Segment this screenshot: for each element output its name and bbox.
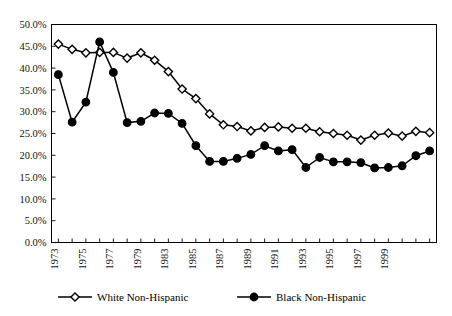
data-point xyxy=(357,159,365,167)
data-point xyxy=(165,110,173,118)
data-point xyxy=(371,164,379,172)
data-point xyxy=(206,158,214,166)
x-axis-tick-label: 1993 xyxy=(297,249,308,270)
x-axis-labels: 1973197519771979198319851987198919911993… xyxy=(49,249,390,270)
x-axis-tick-label: 1985 xyxy=(187,249,198,270)
y-axis-tick-label: 15.0% xyxy=(19,172,46,183)
data-point xyxy=(233,155,241,163)
y-axis-tick-label: 20.0% xyxy=(19,150,46,161)
data-point xyxy=(288,146,296,154)
data-point xyxy=(426,147,434,155)
y-axis-labels: 0.0%5.0%10.0%15.0%20.0%25.0%30.0%35.0%40… xyxy=(19,19,46,248)
y-axis-tick-label: 35.0% xyxy=(19,85,46,96)
data-point xyxy=(343,158,351,166)
data-point xyxy=(330,158,338,166)
data-point xyxy=(316,154,324,162)
x-axis-tick-label: 1989 xyxy=(242,249,253,270)
x-axis-tick-label: 1995 xyxy=(324,249,335,270)
data-point xyxy=(96,38,104,46)
data-point xyxy=(275,147,283,155)
data-point xyxy=(302,164,310,172)
data-point xyxy=(385,164,393,172)
data-point xyxy=(68,118,76,126)
legend-item-2[interactable]: Black Non-Hispanic xyxy=(237,291,366,303)
legend-marker xyxy=(250,293,258,301)
x-axis-tick-label: 1977 xyxy=(104,249,115,270)
data-point xyxy=(82,98,90,106)
x-axis-tick-label: 1975 xyxy=(77,249,88,270)
y-axis-tick-label: 10.0% xyxy=(19,194,46,205)
legend-label: White Non-Hispanic xyxy=(97,291,188,303)
plot-area-border xyxy=(52,25,437,243)
data-point xyxy=(137,117,145,125)
data-point xyxy=(192,142,200,150)
y-axis-tick-label: 45.0% xyxy=(19,41,46,52)
legend-label: Black Non-Hispanic xyxy=(276,291,366,303)
y-axis-tick-label: 40.0% xyxy=(19,63,46,74)
data-point xyxy=(55,71,63,79)
data-point xyxy=(151,109,159,117)
data-point xyxy=(398,162,406,170)
chart-legend: White Non-HispanicBlack Non-Hispanic xyxy=(58,291,366,303)
x-axis-tick-label: 1999 xyxy=(379,249,390,270)
y-axis-tick-label: 50.0% xyxy=(19,19,46,30)
x-axis-tick-label: 1997 xyxy=(352,249,363,270)
y-axis-tick-label: 0.0% xyxy=(25,237,47,248)
legend-marker xyxy=(71,293,79,301)
legend-item-1[interactable]: White Non-Hispanic xyxy=(58,291,188,303)
chart-figure: 0.0%5.0%10.0%15.0%20.0%25.0%30.0%35.0%40… xyxy=(0,0,452,316)
x-axis-tick-label: 1973 xyxy=(49,249,60,270)
x-axis-tick-label: 1979 xyxy=(132,249,143,270)
data-point xyxy=(412,152,420,160)
data-point xyxy=(247,151,255,159)
x-axis-tick-label: 1987 xyxy=(214,249,225,270)
y-axis-tick-label: 25.0% xyxy=(19,128,46,139)
data-point xyxy=(123,119,131,127)
data-point xyxy=(261,142,269,150)
y-axis-tick-label: 5.0% xyxy=(25,215,47,226)
line-chart: 0.0%5.0%10.0%15.0%20.0%25.0%30.0%35.0%40… xyxy=(0,0,452,316)
data-point xyxy=(220,158,228,166)
y-axis-tick-label: 30.0% xyxy=(19,106,46,117)
data-point xyxy=(178,120,186,128)
x-axis-tick-label: 1983 xyxy=(159,249,170,270)
x-axis-tick-label: 1991 xyxy=(269,249,280,270)
data-point xyxy=(110,69,118,77)
